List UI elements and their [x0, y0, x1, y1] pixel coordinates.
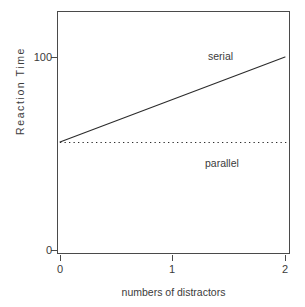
series-annotation-serial: serial	[208, 50, 233, 62]
series-lines	[0, 0, 305, 307]
chart-figure: 100 0 0 1 2 numbers of distractors React…	[0, 0, 305, 307]
series-line-serial	[60, 57, 285, 142]
series-annotation-parallel: parallel	[205, 157, 239, 169]
